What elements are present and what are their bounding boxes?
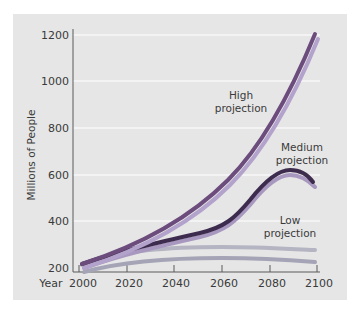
low-projection-label-line1: Low [280, 214, 301, 226]
x-tick-labels: Year 2000 2020 2040 2060 2080 2100 [38, 277, 333, 290]
y-tick-800: 800 [48, 122, 69, 135]
x-tick-2080: 2080 [258, 277, 286, 290]
x-axis-label: Year [38, 277, 63, 290]
medium-projection-label-line2: projection [276, 154, 328, 166]
low-projection-label-line2: projection [264, 227, 316, 239]
high-projection-label-line1: High [229, 89, 253, 101]
y-tick-1000: 1000 [41, 75, 69, 88]
y-tick-600: 600 [48, 169, 69, 182]
population-projection-chart: 1200 1000 800 600 400 200 Year 2000 2020… [0, 0, 361, 315]
y-axis-label: Millions of People [25, 110, 37, 201]
x-tick-2020: 2020 [115, 277, 143, 290]
y-tick-400: 400 [48, 215, 69, 228]
x-tick-2060: 2060 [210, 277, 238, 290]
medium-projection-label-line1: Medium [281, 141, 323, 153]
y-tick-1200: 1200 [41, 29, 69, 42]
x-tick-2100: 2100 [305, 277, 333, 290]
high-projection-label-line2: projection [215, 102, 267, 114]
x-tick-2040: 2040 [162, 277, 190, 290]
y-tick-labels: 1200 1000 800 600 400 200 [41, 29, 69, 275]
gridlines [73, 35, 320, 221]
x-tick-2000: 2000 [69, 277, 97, 290]
y-tick-200: 200 [48, 262, 69, 275]
